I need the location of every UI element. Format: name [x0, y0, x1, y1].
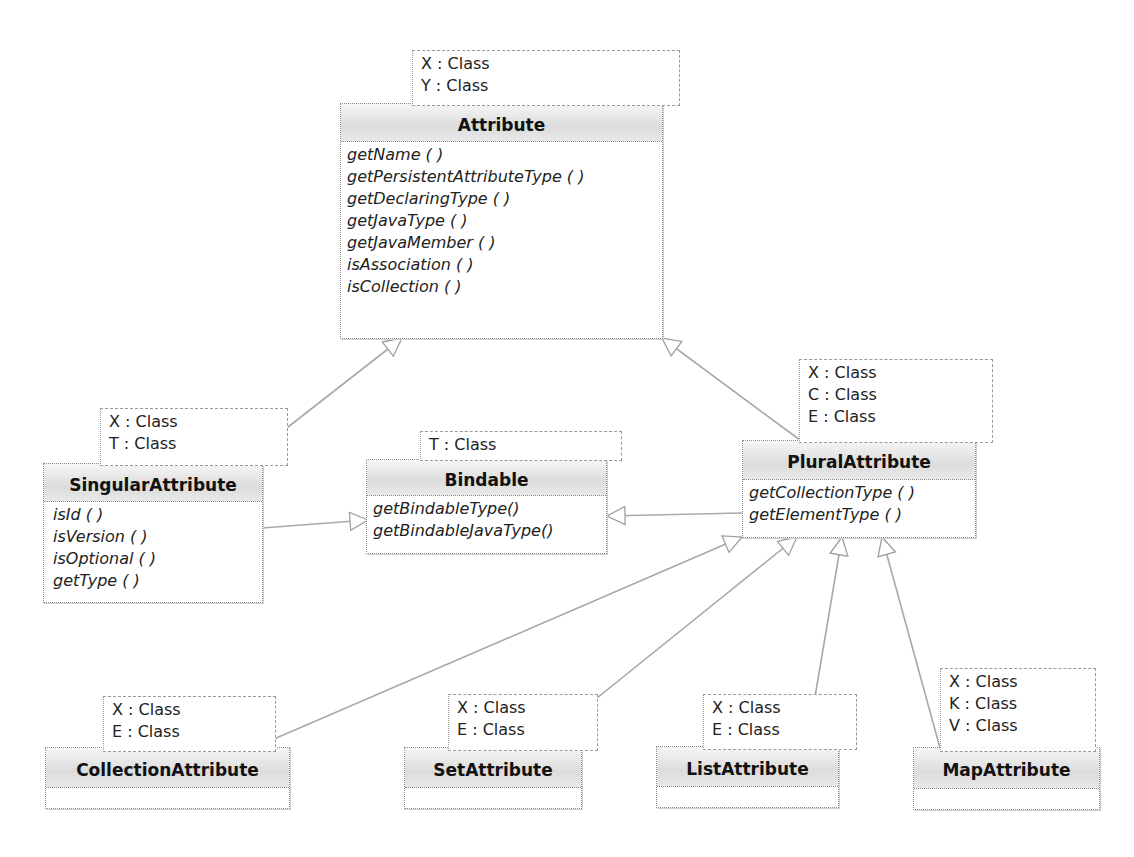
- operation: isId ( ): [53, 504, 256, 526]
- type-params-set-attribute: X : Class E : Class: [448, 694, 598, 751]
- type-params-plural-attribute: X : Class C : Class E : Class: [799, 359, 993, 443]
- type-param: Y : Class: [421, 75, 679, 97]
- type-param: X : Class: [421, 53, 679, 75]
- class-name-attribute: Attribute: [341, 104, 662, 142]
- type-param: V : Class: [949, 715, 1095, 737]
- type-param: X : Class: [109, 411, 287, 433]
- type-param: E : Class: [457, 719, 597, 741]
- type-param: T : Class: [429, 434, 621, 456]
- operation: getJavaType ( ): [347, 210, 656, 232]
- class-name-list-attribute: ListAttribute: [657, 747, 838, 787]
- operation: getElementType ( ): [749, 504, 969, 526]
- class-name-collection-attribute: CollectionAttribute: [46, 748, 289, 788]
- type-params-bindable: T : Class: [420, 431, 622, 461]
- type-param: E : Class: [712, 719, 856, 741]
- operation: isOptional ( ): [53, 548, 256, 570]
- type-params-map-attribute: X : Class K : Class V : Class: [940, 668, 1096, 752]
- operation: isAssociation ( ): [347, 254, 656, 276]
- type-param: X : Class: [457, 697, 597, 719]
- link-map-to-plural: [882, 537, 940, 748]
- operation: getPersistentAttributeType ( ): [347, 166, 656, 188]
- type-params-singular-attribute: X : Class T : Class: [100, 408, 288, 466]
- operation: getBindableType(): [373, 498, 600, 520]
- type-params-list-attribute: X : Class E : Class: [703, 694, 857, 750]
- class-name-set-attribute: SetAttribute: [405, 748, 581, 788]
- operations-set-attribute: [405, 788, 581, 792]
- class-collection-attribute[interactable]: CollectionAttribute: [45, 747, 290, 809]
- class-name-plural-attribute: PluralAttribute: [743, 441, 975, 480]
- operations-plural-attribute: getCollectionType ( ) getElementType ( ): [743, 480, 975, 528]
- operation: getJavaMember ( ): [347, 232, 656, 254]
- operation: isVersion ( ): [53, 526, 256, 548]
- type-param: E : Class: [808, 406, 992, 428]
- type-param: X : Class: [808, 362, 992, 384]
- operations-map-attribute: [914, 789, 1099, 793]
- class-name-singular-attribute: SingularAttribute: [44, 464, 262, 502]
- class-singular-attribute[interactable]: SingularAttribute isId ( ) isVersion ( )…: [43, 463, 263, 603]
- type-param: X : Class: [112, 699, 275, 721]
- operation: isCollection ( ): [347, 276, 656, 298]
- link-singular-to-bindable: [262, 520, 368, 528]
- link-plural-to-attribute: [662, 338, 800, 440]
- operations-list-attribute: [657, 787, 838, 791]
- type-param: X : Class: [949, 671, 1095, 693]
- class-bindable[interactable]: Bindable getBindableType() getBindableJa…: [366, 459, 607, 554]
- operation: getBindableJavaType(): [373, 520, 600, 542]
- operation: getType ( ): [53, 570, 256, 592]
- type-param: X : Class: [712, 697, 856, 719]
- operations-singular-attribute: isId ( ) isVersion ( ) isOptional ( ) ge…: [44, 502, 262, 594]
- class-list-attribute[interactable]: ListAttribute: [656, 746, 839, 808]
- class-name-bindable: Bindable: [367, 460, 606, 496]
- operations-bindable: getBindableType() getBindableJavaType(): [367, 496, 606, 544]
- class-plural-attribute[interactable]: PluralAttribute getCollectionType ( ) ge…: [742, 440, 976, 538]
- type-params-attribute: X : Class Y : Class: [412, 50, 680, 106]
- type-params-collection-attribute: X : Class E : Class: [103, 696, 276, 752]
- type-param: C : Class: [808, 384, 992, 406]
- operation: getName ( ): [347, 144, 656, 166]
- type-param: K : Class: [949, 693, 1095, 715]
- link-plural-to-bindable: [607, 513, 742, 516]
- class-name-map-attribute: MapAttribute: [914, 748, 1099, 789]
- operation: getCollectionType ( ): [749, 482, 969, 504]
- operation: getDeclaringType ( ): [347, 188, 656, 210]
- class-map-attribute[interactable]: MapAttribute: [913, 747, 1100, 810]
- class-attribute[interactable]: Attribute getName ( ) getPersistentAttri…: [340, 103, 663, 339]
- type-param: T : Class: [109, 433, 287, 455]
- operations-attribute: getName ( ) getPersistentAttributeType (…: [341, 142, 662, 300]
- type-param: E : Class: [112, 721, 275, 743]
- class-set-attribute[interactable]: SetAttribute: [404, 747, 582, 809]
- operations-collection-attribute: [46, 788, 289, 792]
